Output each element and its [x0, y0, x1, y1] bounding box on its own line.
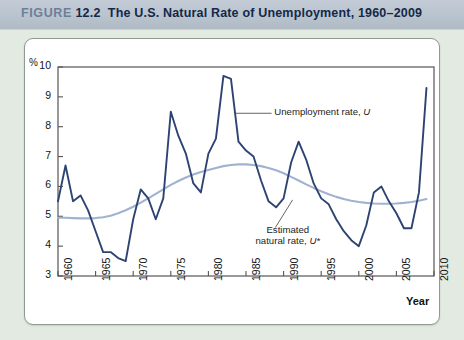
annotation-unemployment-rate: Unemployment rate, U — [274, 106, 370, 118]
figure-title-text: The U.S. Natural Rate of Unemployment, 1… — [108, 6, 422, 20]
y-tick-label: 8 — [33, 119, 51, 131]
annotation-unemployment-symbol: U — [363, 106, 370, 117]
x-tick-label: 1975 — [175, 258, 187, 281]
y-tick-label: 10 — [33, 59, 51, 71]
figure-number: 12.2 — [75, 6, 100, 20]
annotation-natural-symbol: U* — [309, 235, 320, 246]
y-tick-label: 6 — [33, 178, 51, 190]
unemployment-rate-line — [58, 76, 426, 261]
figure-word: FIGURE — [21, 6, 72, 20]
y-tick-label: 3 — [33, 268, 51, 280]
annotation-natural-line2: natural rate, U* — [256, 235, 321, 247]
x-tick-label: 1980 — [212, 258, 224, 281]
x-tick-label: 1970 — [137, 258, 149, 281]
figure-header-band: FIGURE 12.2 The U.S. Natural Rate of Une… — [0, 0, 464, 30]
natural-rate-line — [58, 164, 426, 218]
x-axis-label: Year — [406, 295, 429, 307]
chart-area — [25, 39, 439, 324]
y-tick-label: 9 — [33, 89, 51, 101]
plot-frame — [58, 67, 434, 276]
x-tick-label: 1960 — [62, 258, 74, 281]
x-tick-label: 2000 — [363, 258, 375, 281]
x-tick-label: 1995 — [325, 258, 337, 281]
annotation-unemployment-text: Unemployment rate, — [274, 106, 363, 117]
figure-caption: FIGURE 12.2 The U.S. Natural Rate of Une… — [21, 6, 422, 20]
y-tick-label: 5 — [33, 208, 51, 220]
figure-screenshot: FIGURE 12.2 The U.S. Natural Rate of Une… — [0, 0, 464, 340]
figure-panel — [24, 38, 440, 325]
unemployment-line-chart — [25, 39, 439, 324]
x-tick-label: 1965 — [100, 258, 112, 281]
annotation-natural-text: natural rate, — [256, 235, 310, 246]
x-tick-label: 2010 — [438, 258, 450, 281]
annotation-natural-line1: Estimated — [256, 224, 321, 236]
x-tick-label: 1985 — [250, 258, 262, 281]
x-tick-label: 2005 — [400, 258, 412, 281]
y-tick-label: 7 — [33, 149, 51, 161]
annotation-natural-rate: Estimatednatural rate, U* — [256, 224, 321, 247]
y-tick-label: 4 — [33, 238, 51, 250]
page-body-text-cutoff — [26, 333, 326, 340]
x-tick-label: 1990 — [288, 258, 300, 281]
